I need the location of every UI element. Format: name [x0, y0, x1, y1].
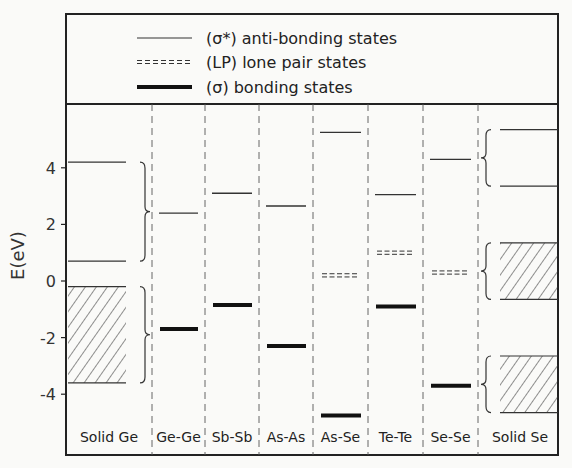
legend-label: (LP) lone pair states [206, 53, 366, 72]
column-as-se: As-Se [320, 132, 361, 445]
category-label: Solid Se [492, 429, 548, 445]
curly-brace [481, 243, 491, 300]
category-label: As-As [267, 429, 306, 445]
column-te-te: Te-Te [375, 195, 416, 445]
category-label: Ge-Ge [156, 429, 201, 445]
curly-brace [140, 287, 150, 383]
energy-level-diagram: (σ*) anti-bonding states(LP) lone pair s… [0, 0, 572, 468]
hatched-band [68, 287, 126, 383]
column-as-as: As-As [266, 206, 306, 445]
y-tick-label: -4 [40, 385, 56, 404]
y-axis-label: E(eV) [7, 231, 28, 280]
category-label: As-Se [321, 429, 360, 445]
curly-brace [481, 356, 491, 413]
column-sb-sb: Sb-Sb [212, 193, 253, 445]
column-ge-ge: Ge-Ge [156, 213, 201, 445]
category-label: Te-Te [378, 429, 412, 445]
legend-label: (σ) bonding states [206, 78, 353, 97]
curly-brace [140, 162, 150, 261]
curly-brace [481, 130, 491, 187]
category-label: Solid Ge [80, 429, 138, 445]
legend: (σ*) anti-bonding states(LP) lone pair s… [137, 29, 397, 97]
legend-label: (σ*) anti-bonding states [206, 29, 397, 48]
hatched-band [500, 356, 558, 413]
column-solid-se: Solid Se [492, 130, 558, 445]
hatched-band [500, 243, 558, 300]
y-tick-label: -2 [40, 329, 56, 348]
y-tick-label: 2 [46, 215, 56, 234]
category-label: Se-Se [430, 429, 470, 445]
y-tick-label: 4 [46, 159, 56, 178]
category-label: Sb-Sb [212, 429, 253, 445]
columns: Solid GeGe-GeSb-SbAs-AsAs-SeTe-TeSe-SeSo… [68, 104, 558, 455]
y-axis: 420-2-4E(eV) [7, 159, 66, 404]
column-se-se: Se-Se [430, 159, 471, 445]
y-tick-label: 0 [46, 272, 56, 291]
column-solid-ge: Solid Ge [68, 162, 138, 445]
